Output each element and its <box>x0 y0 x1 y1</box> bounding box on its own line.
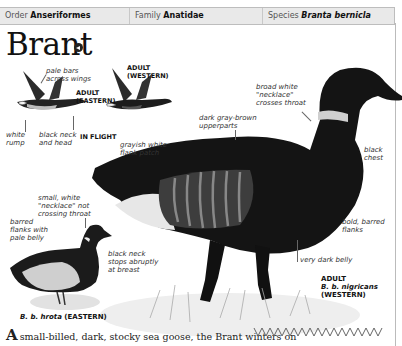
annotation-flank-patch: grayish whiteflank patch <box>120 141 167 157</box>
small-caption: B. b. hrota (EASTERN) <box>20 314 107 322</box>
zigzag-divider <box>254 327 384 337</box>
annotation-upperparts: dark gray-brownupperparts <box>199 114 257 130</box>
annotation-small-neck: black neckstops abruptlyat breast <box>108 250 158 274</box>
leader-line <box>235 130 236 140</box>
annotation-black-chest: blackchest <box>364 146 383 162</box>
main-caption: ADULTB. b. nigricans(WESTERN) <box>321 275 378 299</box>
drop-cap: A <box>6 326 18 344</box>
leader-line <box>85 218 86 228</box>
body-paragraph: Asmall-billed, dark, stocky sea goose, t… <box>6 326 296 344</box>
annotation-necklace: broad white"necklace"crosses throat <box>256 83 306 107</box>
annotation-small-necklace: small, white"necklace" notcrossing throa… <box>38 194 91 218</box>
leader-line <box>297 240 298 262</box>
annotation-barred-flanks: bold, barredflanks <box>342 218 385 234</box>
annotation-small-flanks: barredflanks withpale belly <box>10 218 48 242</box>
annotation-dark-belly: very dark belly <box>300 256 352 264</box>
